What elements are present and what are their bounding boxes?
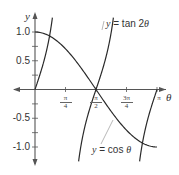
y-tick-label: 0.5	[16, 56, 30, 66]
y-axis-label: y	[25, 11, 30, 21]
x-tick-label: π2	[90, 95, 102, 110]
x-tick-label: π4	[60, 95, 72, 110]
cos-curve-label: y = cos θ	[92, 145, 131, 155]
y-tick-label: 1.0	[16, 27, 30, 37]
x-axis-label: θ	[166, 92, 171, 102]
annotation-leaders	[101, 21, 113, 144]
y-axis-down-arrow-icon	[33, 159, 38, 166]
cos-label-leader	[101, 120, 113, 144]
y-tick-label: -1.0	[13, 142, 30, 152]
x-tick-label: π	[153, 95, 165, 102]
x-axis-left-arrow-icon	[13, 87, 20, 92]
x-tick-label: 3π4	[121, 95, 133, 110]
x-axis-arrow-icon	[159, 87, 166, 92]
y-tick-label: -0.5	[13, 113, 30, 123]
tan-curve-branch	[35, 18, 52, 90]
y-axis-arrow-icon	[33, 12, 38, 19]
tan-curve-label: y = tan 2θ	[106, 19, 149, 29]
tan-label-leader	[102, 21, 104, 30]
